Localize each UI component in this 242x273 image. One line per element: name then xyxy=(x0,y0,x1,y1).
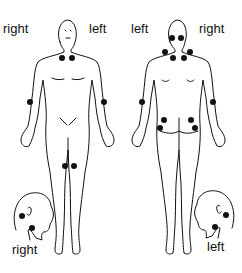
tender-point-back-elbow-right xyxy=(210,99,216,105)
back-right-label: right xyxy=(199,22,224,35)
tender-point-back-occiput-right xyxy=(178,35,184,41)
tender-points-diagram: right left left right right left xyxy=(0,0,242,273)
tender-point-back-supraspinatus-left xyxy=(170,55,176,61)
tender-point-back-trapezius-left xyxy=(162,49,168,55)
head-left-label: left xyxy=(207,240,224,253)
body-outlines xyxy=(0,0,242,273)
tender-point-back-trapezius-right xyxy=(187,49,193,55)
tender-point-head_right-occiput xyxy=(19,213,25,219)
head-right-label: right xyxy=(12,243,37,256)
tender-point-front-knee-left xyxy=(71,163,77,169)
back-figure xyxy=(132,20,225,254)
tender-point-back-gluteal-left xyxy=(161,117,167,123)
front-right-label: right xyxy=(3,22,28,35)
tender-point-back-gluteal-right xyxy=(188,117,194,123)
tender-point-front-lateral-epicondyle-left xyxy=(101,99,107,105)
tender-point-front-low-cervical-left xyxy=(69,55,75,61)
back-left-label: left xyxy=(131,22,148,35)
front-figure xyxy=(21,20,114,254)
tender-point-front-knee-right xyxy=(62,163,68,169)
tender-point-back-supraspinatus-right xyxy=(181,55,187,61)
tender-point-front-second-rib-right xyxy=(27,99,33,105)
tender-point-back-greater-trochanter-left xyxy=(157,125,163,131)
tender-point-back-elbow-left xyxy=(139,99,145,105)
tender-point-back-occiput-left xyxy=(169,35,175,41)
tender-point-back-greater-trochanter-right xyxy=(192,125,198,131)
tender-point-head_right-anterior-cervical xyxy=(29,225,35,231)
tender-point-front-low-cervical-right xyxy=(59,55,65,61)
front-left-label: left xyxy=(89,22,106,35)
tender-point-head_left-occiput xyxy=(223,212,229,218)
tender-point-head_left-anterior-cervical xyxy=(212,224,218,230)
